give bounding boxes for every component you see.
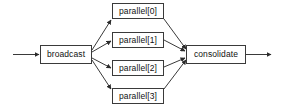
node-consolidate[interactable]: consolidate: [186, 45, 246, 64]
node-broadcast[interactable]: broadcast: [40, 45, 92, 64]
edge-broadcast-to-parallel-0: [92, 20, 111, 50]
node-broadcast-label: broadcast: [47, 50, 85, 59]
node-parallel-0-label: parallel[0]: [119, 7, 157, 16]
edge-broadcast-to-parallel-1: [92, 41, 111, 52]
node-parallel-2-label: parallel[2]: [119, 64, 157, 73]
edge-broadcast-to-parallel-3: [92, 60, 111, 89]
node-parallel-3[interactable]: parallel[3]: [112, 88, 164, 104]
node-consolidate-label: consolidate: [194, 50, 238, 59]
node-parallel-0[interactable]: parallel[0]: [112, 3, 164, 19]
node-parallel-2[interactable]: parallel[2]: [112, 60, 164, 76]
edge-parallel-0-to-consolidate: [164, 19, 186, 49]
edge-parallel-1-to-consolidate: [164, 40, 185, 51]
node-parallel-1-label: parallel[1]: [119, 36, 157, 45]
edge-parallel-3-to-consolidate: [164, 60, 186, 89]
node-parallel-1[interactable]: parallel[1]: [112, 32, 164, 48]
node-parallel-3-label: parallel[3]: [119, 92, 157, 101]
edge-broadcast-to-parallel-2: [92, 58, 111, 68]
flow-diagram: broadcast parallel[0] parallel[1] parall…: [0, 0, 284, 108]
